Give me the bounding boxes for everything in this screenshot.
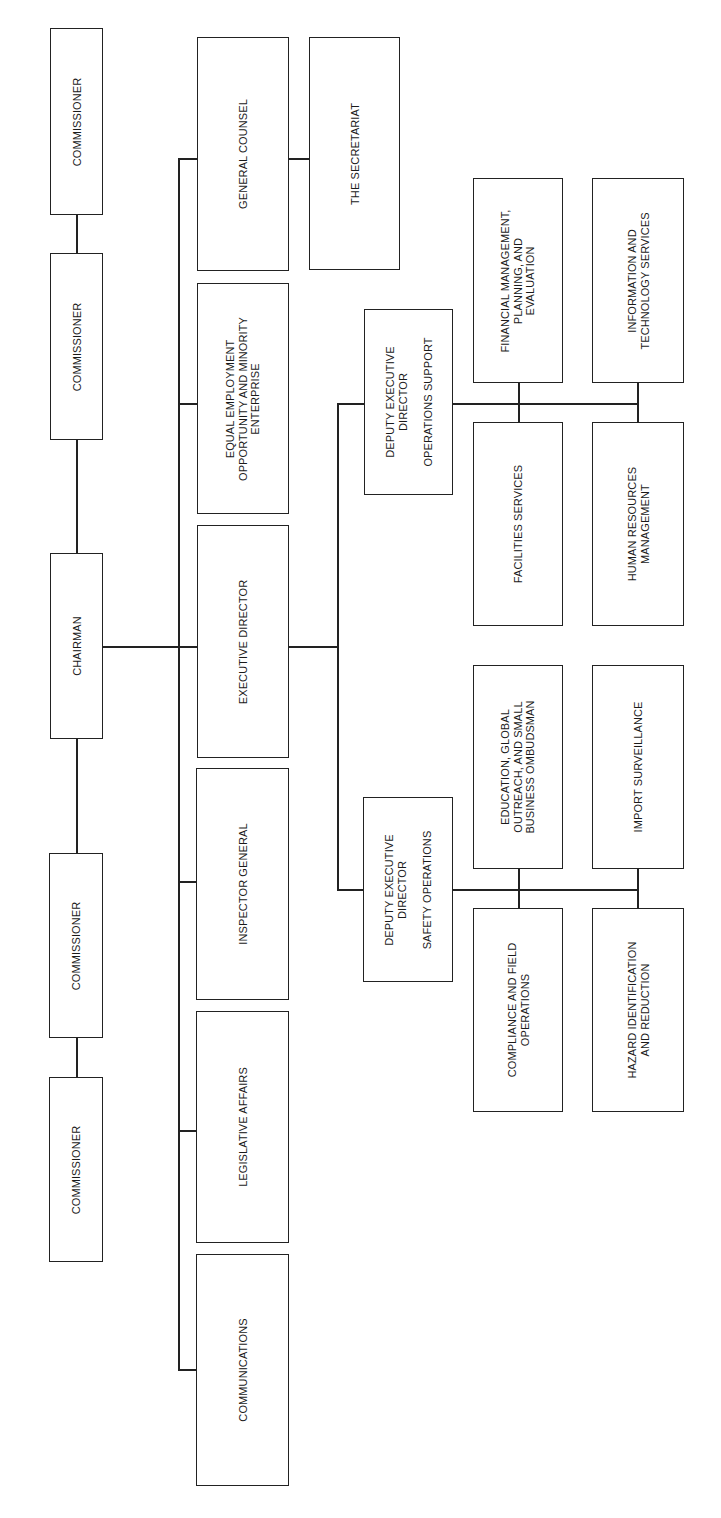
gc-to-secretariat — [289, 158, 309, 160]
node-general-counsel: GENERAL COUNSEL — [197, 37, 289, 271]
node-label: LEGISLATIVE AFFAIRS — [236, 1067, 249, 1187]
node-facilities-services: FACILITIES SERVICES — [473, 422, 563, 626]
node-label: EQUAL EMPLOYMENT OPPORTUNITY AND MINORIT… — [224, 317, 262, 481]
node-label: COMMISSIONER — [70, 302, 83, 391]
spine-to-la — [178, 1130, 197, 1132]
node-inspector-general: INSPECTOR GENERAL — [196, 768, 289, 1000]
spine-to-gc — [178, 158, 197, 160]
node-commissioner-4: COMMISSIONER — [49, 1077, 103, 1262]
chairman-to-spine-connector — [103, 646, 197, 648]
node-communications: COMMUNICATIONS — [196, 1254, 289, 1486]
node-label: INSPECTOR GENERAL — [236, 823, 249, 944]
board-connector — [76, 739, 78, 853]
to-deputy-safety — [337, 889, 363, 891]
node-label: COMMISSIONER — [70, 1125, 83, 1214]
node-label: COMMISSIONER — [70, 77, 83, 166]
node-label: COMMISSIONER — [70, 901, 83, 990]
node-label: IMPORT SURVEILLANCE — [632, 702, 645, 833]
node-executive-director: EXECUTIVE DIRECTOR — [197, 525, 289, 758]
node-eeo: EQUAL EMPLOYMENT OPPORTUNITY AND MINORIT… — [197, 283, 289, 514]
node-compliance: COMPLIANCE AND FIELD OPERATIONS — [473, 908, 563, 1112]
node-label: HUMAN RESOURCES MANAGEMENT — [626, 467, 651, 582]
node-import-surveillance: IMPORT SURVEILLANCE — [592, 665, 684, 869]
safety-branch-a — [518, 869, 520, 908]
node-deputy-safety-ops: DEPUTY EXECUTIVE DIRECTOR SAFETY OPERATI… — [363, 797, 453, 982]
node-label: FINANCIAL MANAGEMENT, PLANNING, AND EVAL… — [499, 209, 537, 352]
board-connector — [76, 1038, 78, 1077]
node-label: DEPUTY EXECUTIVE DIRECTOR SAFETY OPERATI… — [383, 830, 433, 949]
to-deputy-ops — [337, 403, 364, 405]
board-connector — [76, 215, 78, 253]
node-commissioner-3: COMMISSIONER — [49, 853, 103, 1038]
node-information-technology: INFORMATION AND TECHNOLOGY SERVICES — [592, 178, 684, 383]
spine-to-eeo — [178, 403, 197, 405]
node-legislative-affairs: LEGISLATIVE AFFAIRS — [196, 1011, 289, 1243]
node-commissioner-2: COMMISSIONER — [50, 253, 103, 440]
node-label: GENERAL COUNSEL — [237, 99, 250, 209]
ops-branch-a — [518, 383, 520, 422]
node-hazard: HAZARD IDENTIFICATION AND REDUCTION — [592, 908, 684, 1112]
node-education-outreach: EDUCATION, GLOBAL OUTREACH, AND SMALL BU… — [473, 665, 563, 869]
node-label: INFORMATION AND TECHNOLOGY SERVICES — [626, 212, 651, 349]
safety-branch-b — [637, 869, 639, 908]
node-financial-management: FINANCIAL MANAGEMENT, PLANNING, AND EVAL… — [473, 178, 563, 383]
ops-branch-b — [637, 383, 639, 422]
node-label: HAZARD IDENTIFICATION AND REDUCTION — [626, 942, 651, 1079]
node-commissioner-1: COMMISSIONER — [50, 28, 103, 215]
node-chairman: CHAIRMAN — [50, 553, 103, 739]
node-label: DEPUTY EXECUTIVE DIRECTOR OPERATIONS SUP… — [384, 337, 434, 466]
spine-to-ig — [178, 881, 197, 883]
board-connector — [76, 440, 78, 553]
spine-to-comms — [178, 1369, 197, 1371]
node-label: EXECUTIVE DIRECTOR — [237, 579, 250, 703]
node-label: THE SECRETARIAT — [348, 103, 361, 205]
deputy-spine — [337, 403, 339, 890]
node-label: CHAIRMAN — [70, 616, 83, 675]
node-deputy-ops-support: DEPUTY EXECUTIVE DIRECTOR OPERATIONS SUP… — [364, 309, 453, 495]
node-label: COMPLIANCE AND FIELD OPERATIONS — [506, 943, 531, 1078]
safety-branch-line — [453, 889, 638, 891]
node-label: FACILITIES SERVICES — [512, 465, 525, 583]
node-human-resources: HUMAN RESOURCES MANAGEMENT — [592, 422, 684, 626]
node-label: EDUCATION, GLOBAL OUTREACH, AND SMALL BU… — [499, 700, 537, 833]
ops-branch-line — [453, 403, 638, 405]
staff-spine — [178, 158, 180, 1370]
ed-to-deputy-spine — [289, 646, 337, 648]
node-secretariat: THE SECRETARIAT — [309, 37, 400, 270]
node-label: COMMUNICATIONS — [236, 1318, 249, 1421]
